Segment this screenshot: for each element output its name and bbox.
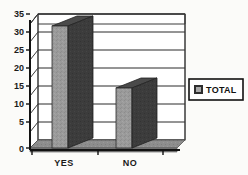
bar-no-side — [132, 78, 157, 148]
y-tick-label-15: 15 — [14, 81, 24, 91]
x-category-label-yes: YES — [54, 158, 74, 168]
y-tick-label-35: 35 — [14, 9, 24, 19]
legend-swatch-total-inner — [196, 87, 201, 92]
y-tick-label-30: 30 — [14, 27, 24, 37]
y-tick-label-0: 0 — [19, 144, 24, 154]
bar-yes-side — [68, 16, 93, 148]
y-tick-label-10: 10 — [14, 99, 24, 109]
bar-yes — [52, 16, 93, 148]
legend-label-total: TOTAL — [206, 85, 237, 95]
bar-no-front — [116, 88, 132, 148]
y-tick-label-25: 25 — [14, 45, 24, 55]
legend[interactable]: TOTAL — [189, 79, 243, 100]
y-tick-label-20: 20 — [14, 63, 24, 73]
x-category-label-no: NO — [123, 158, 138, 168]
y-tick-label-5: 5 — [19, 117, 24, 127]
wall-top-bevel — [30, 14, 185, 24]
bar-yes-front — [52, 26, 68, 148]
bar-no — [116, 78, 157, 148]
chart-canvas: 35 30 25 20 15 10 5 0 YES — [0, 0, 248, 175]
bar-chart: 35 30 25 20 15 10 5 0 YES — [0, 0, 248, 175]
